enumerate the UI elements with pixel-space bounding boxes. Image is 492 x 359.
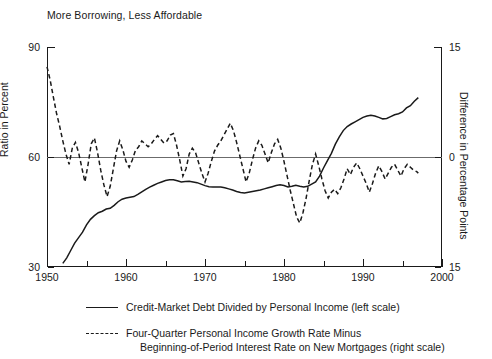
y-tick-label-left: 30 [18,261,40,273]
y-axis-left-title: Ratio in Percent [0,82,10,157]
plot-area [47,47,442,267]
x-tick-label: 1990 [351,271,374,283]
y-tick-right [435,267,441,268]
y-tick-label-left: 90 [18,41,40,53]
legend-item-solid: Credit-Market Debt Divided by Personal I… [0,300,492,326]
series-line-income-growth-minus-rate [47,67,418,223]
legend-label-dashed-line1: Four-Quarter Personal Income Growth Rate… [126,326,361,340]
legend-item-dashed: Four-Quarter Personal Income Growth Rate… [0,326,492,356]
legend-key-solid-line [86,307,118,308]
legend-label-solid: Credit-Market Debt Divided by Personal I… [126,300,400,314]
x-tick-label: 1980 [272,271,295,283]
x-tick-label: 1960 [114,271,137,283]
y-tick-label-right: 15 [449,41,461,53]
x-tick-label: 1970 [193,271,216,283]
x-tick-major [442,259,443,267]
y-tick-label-left: 60 [18,151,40,163]
chart-container: More Borrowing, Less Affordable Ratio in… [0,0,492,359]
legend-label-dashed-line2: Beginning-of-Period Interest Rate on New… [140,340,445,354]
legend-key-dashed-line [86,333,118,334]
series-lines [47,47,442,267]
y-axis-right-title: Difference in Percentage Points [458,92,470,239]
chart-legend: Credit-Market Debt Divided by Personal I… [0,300,492,356]
y-tick-left [48,267,54,268]
chart-title: More Borrowing, Less Affordable [47,9,202,21]
y-tick-label-right: 0 [449,151,455,163]
y-tick-label-right: 15 [449,261,461,273]
